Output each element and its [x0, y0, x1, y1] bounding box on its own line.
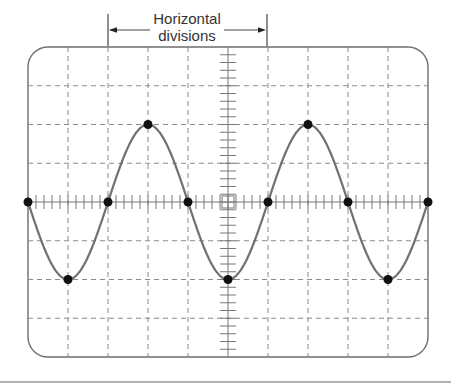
- waveform-point: [304, 120, 313, 129]
- horizontal-divisions-annotation: Horizontal divisions: [108, 10, 267, 46]
- waveform-point: [264, 198, 273, 207]
- waveform-point: [224, 275, 233, 284]
- waveform-point: [64, 275, 73, 284]
- waveform-point: [184, 198, 193, 207]
- waveform-point: [424, 198, 433, 207]
- waveform-point: [144, 120, 153, 129]
- right-arrowhead-icon: [258, 27, 266, 32]
- left-arrowhead-icon: [109, 27, 117, 32]
- waveform-point: [104, 198, 113, 207]
- waveform-point: [344, 198, 353, 207]
- waveform-point: [384, 275, 393, 284]
- waveform-point: [24, 198, 33, 207]
- annotation-line-2: divisions: [158, 27, 216, 44]
- annotation-line-1: Horizontal: [153, 10, 221, 27]
- oscilloscope-diagram: Horizontal divisions: [0, 0, 451, 384]
